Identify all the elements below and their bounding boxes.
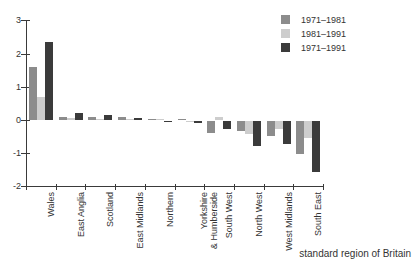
legend-item: 1981–1991	[281, 27, 346, 40]
bar	[148, 119, 156, 120]
y-axis-tick-label: 0	[0, 115, 21, 125]
x-axis-tick	[175, 184, 176, 190]
legend-item: 1971–1991	[281, 41, 346, 54]
legend-label: 1981–1991	[301, 29, 346, 39]
y-axis-tick-label: 3	[0, 15, 21, 25]
x-axis-tick	[85, 184, 86, 190]
bar	[267, 121, 275, 136]
bar	[275, 121, 283, 129]
x-axis-label: Yorkshire & Humberside	[199, 192, 219, 249]
bar	[304, 121, 312, 138]
bar	[37, 97, 45, 120]
y-axis-tick	[21, 54, 30, 55]
x-axis-tick	[115, 184, 116, 190]
bar	[178, 119, 186, 120]
legend-label: 1971–1991	[301, 43, 346, 53]
bar	[67, 118, 75, 120]
y-axis-tick	[21, 20, 30, 21]
bar	[215, 117, 223, 120]
bar	[134, 118, 142, 120]
bar	[207, 121, 215, 133]
bar-chart: 3210-1-2WalesEast AngliaScotlandEast Mid…	[0, 0, 415, 276]
x-axis-tick	[56, 184, 57, 190]
y-axis-tick-label: 2	[0, 49, 21, 59]
x-axis-tick	[323, 184, 324, 190]
legend: 1971–19811981–19911971–1991	[281, 13, 346, 55]
y-axis-tick	[21, 153, 30, 154]
bar	[126, 119, 134, 120]
x-axis-label: West Midlands	[283, 192, 293, 251]
bar	[194, 121, 202, 123]
legend-swatch	[281, 43, 290, 52]
bar	[283, 121, 291, 144]
x-axis-label: Northern	[165, 192, 175, 227]
bar	[45, 42, 53, 120]
y-axis-tick-label: -2	[0, 181, 21, 191]
bar	[75, 113, 83, 120]
x-axis-label: South East	[313, 192, 323, 236]
x-axis-tick	[145, 184, 146, 190]
bar	[156, 119, 164, 120]
bar	[223, 121, 231, 129]
y-axis-tick-label: 1	[0, 82, 21, 92]
bar	[29, 67, 37, 120]
x-axis-tick	[26, 184, 27, 190]
bar	[237, 121, 245, 131]
x-axis-label: East Midlands	[135, 192, 145, 249]
y-axis-tick	[21, 120, 30, 121]
legend-label: 1971–1981	[301, 15, 346, 25]
bar	[253, 121, 261, 146]
y-axis-tick-label: -1	[0, 148, 21, 158]
x-axis-tick	[204, 184, 205, 190]
x-axis-tick	[234, 184, 235, 190]
bar	[312, 121, 320, 172]
x-axis-title: standard region of Britain	[299, 248, 411, 259]
legend-swatch	[281, 15, 290, 24]
x-axis-tick	[293, 184, 294, 190]
x-axis-label: Wales	[46, 192, 56, 217]
x-axis-label: South West	[224, 192, 234, 238]
bar	[88, 117, 96, 120]
legend-swatch	[281, 29, 290, 38]
x-axis-label: North West	[254, 192, 264, 237]
bar	[164, 121, 172, 122]
x-axis-label: Scotland	[105, 192, 115, 227]
bar	[118, 117, 126, 120]
bar	[96, 119, 104, 120]
bar	[104, 115, 112, 120]
x-axis-tick	[264, 184, 265, 190]
legend-item: 1971–1981	[281, 13, 346, 26]
bar	[59, 117, 67, 120]
bar	[186, 121, 194, 122]
bar	[296, 121, 304, 154]
y-axis-line	[26, 20, 27, 187]
x-axis-label: East Anglia	[76, 192, 86, 237]
bar	[245, 121, 253, 134]
